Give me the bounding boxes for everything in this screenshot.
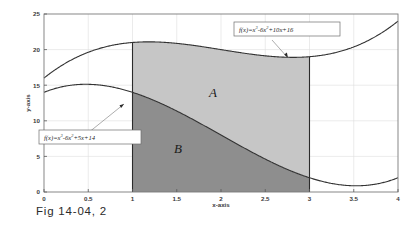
y-tick-label: 20 (33, 46, 40, 53)
figure-caption: Fig 14-04, 2 (36, 205, 107, 217)
region-label-b: B (174, 141, 182, 156)
x-tick-label: 3 (308, 195, 312, 202)
x-axis-title: x-axis (212, 201, 230, 208)
upper-eq-term2: -6x (258, 26, 266, 33)
x-tick-label: 3.5 (349, 195, 358, 202)
y-tick-label: 5 (37, 153, 41, 160)
x-tick-label: 0 (42, 195, 46, 202)
lower-equation-callout: f(x)=x3-6x2+5x+14 (39, 130, 141, 144)
y-axis-tick-labels: 0510152025 (33, 10, 40, 195)
x-tick-label: 4 (396, 195, 400, 202)
lower-eq-lhs: f(x)= (44, 134, 58, 142)
upper-eq-lhs: f(x)= (239, 26, 253, 34)
figure-container: 00.511.522.533.54 0510152025 x-axis y-ax… (0, 0, 410, 232)
x-tick-label: 2.5 (261, 195, 270, 202)
y-axis-title: y-axis (24, 94, 31, 112)
y-tick-label: 0 (37, 188, 41, 195)
region-label-a: A (208, 85, 217, 100)
x-tick-label: 1 (131, 195, 135, 202)
x-tick-label: 0.5 (84, 195, 93, 202)
y-tick-label: 10 (33, 117, 40, 124)
lower-eq-term2: -6x (63, 134, 71, 141)
y-tick-label: 15 (33, 82, 40, 89)
upper-equation-callout: f(x)=x3-6x2+10x+16 (234, 22, 340, 36)
lower-eq-term3: +5x+14 (73, 134, 95, 141)
y-tick-label: 25 (33, 10, 40, 17)
lower-callout-text: f(x)=x3-6x2+5x+14 (44, 133, 96, 142)
upper-eq-term3: +10x+16 (268, 26, 294, 33)
chart-canvas: 00.511.522.533.54 0510152025 x-axis y-ax… (0, 0, 410, 232)
x-tick-label: 1.5 (172, 195, 181, 202)
